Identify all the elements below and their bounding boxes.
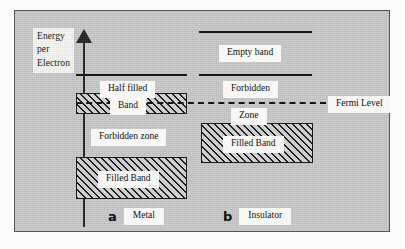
metal-caption: a Metal [108,208,164,225]
metal-half-filled-band-top-edge [76,74,187,76]
insulator-filled-band-label: Filled Band [223,136,284,153]
diagram-frame: Energy per Electron Half filled Band For… [14,10,390,232]
insulator-caption-letter: b [223,210,232,223]
figure-canvas: Energy per Electron Half filled Band For… [0,0,405,249]
metal-caption-name: Metal [124,208,164,225]
axis-caption-line-2: per [37,43,70,56]
insulator-empty-band-label: Empty band [219,45,281,62]
energy-axis-caption: Energy per Electron [33,28,74,73]
metal-caption-letter: a [108,210,117,223]
axis-caption-line-1: Energy [37,30,70,43]
metal-forbidden-zone-label: Forbidden zone [91,129,166,146]
metal-half-filled-band-label-bottom: Band [110,98,146,115]
metal-filled-band-label: Filled Band [98,171,159,188]
insulator-empty-band-top-edge [199,31,312,33]
metal-half-filled-band-label-top: Half filled [100,81,155,98]
insulator-caption-name: Insulator [239,208,291,225]
insulator-caption: b Insulator [223,208,291,225]
fermi-level-label: Fermi Level [328,96,391,113]
insulator-forbidden-zone-label-bottom: Zone [231,108,267,125]
axis-caption-line-3: Electron [37,57,70,70]
insulator-empty-band-bottom-edge [199,74,312,76]
insulator-forbidden-zone-label-top: Forbidden [223,81,278,98]
